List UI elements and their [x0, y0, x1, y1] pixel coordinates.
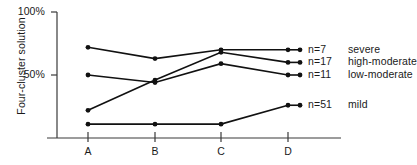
data-point-severe-B [153, 56, 158, 61]
legend-count-low-moderate: n=11 [308, 68, 344, 80]
series-line-mild [88, 105, 288, 124]
data-point-low-moderate-A [86, 73, 91, 78]
data-point-low-moderate-legend [298, 73, 303, 78]
data-point-mild-legend [298, 103, 303, 108]
legend-label-severe: severe [348, 43, 380, 55]
data-point-severe-D [286, 47, 291, 52]
data-point-mild-B [153, 122, 158, 127]
data-point-high-moderate-C [219, 50, 224, 55]
data-point-high-moderate-A [86, 108, 91, 113]
data-point-mild-A [86, 122, 91, 127]
legend-count-mild: n=51 [308, 98, 344, 110]
series-line-high-moderate [88, 52, 288, 110]
legend-count-severe: n=7 [308, 43, 344, 55]
data-point-low-moderate-B [153, 80, 158, 85]
data-point-mild-D [286, 103, 291, 108]
series-line-severe [88, 47, 288, 58]
data-point-severe-A [86, 45, 91, 50]
axes [47, 12, 341, 142]
legend-label-mild: mild [348, 98, 368, 110]
data-point-low-moderate-D [286, 73, 291, 78]
data-point-high-moderate-D [286, 60, 291, 65]
data-series-group [86, 45, 303, 127]
data-point-low-moderate-C [219, 61, 224, 66]
legend-label-low-moderate: low-moderate [348, 68, 413, 80]
legend-count-high-moderate: n=17 [308, 55, 344, 67]
data-point-severe-legend [298, 47, 303, 52]
data-point-high-moderate-legend [298, 60, 303, 65]
data-point-mild-C [219, 122, 224, 127]
legend-label-high-moderate: high-moderate [348, 55, 417, 67]
